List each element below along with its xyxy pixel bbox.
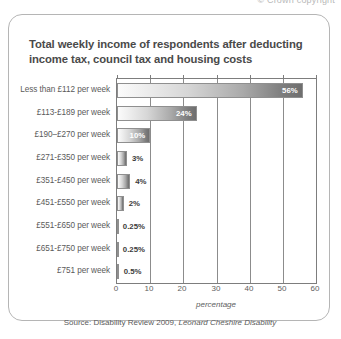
bar[interactable] — [117, 83, 303, 98]
category-label: £651-£750 per week — [9, 244, 110, 253]
axis-tick-mark — [117, 75, 118, 79]
bar-value-label: 24% — [176, 110, 192, 118]
bar-row[interactable]: 0.25% — [117, 219, 316, 234]
crown-copyright-note: © Crown copyright — [257, 0, 335, 5]
bar-value-label: 10% — [130, 132, 146, 140]
bar-row[interactable]: 10% — [117, 128, 316, 143]
chart-card: Total weekly income of respondents after… — [8, 14, 330, 321]
bar-value-label: 3% — [132, 155, 143, 163]
bar-row[interactable]: 2% — [117, 196, 316, 211]
axis-tick-mark — [283, 75, 284, 79]
bar-row[interactable]: 3% — [117, 151, 316, 166]
bar[interactable] — [117, 174, 130, 189]
x-tick-label: 0 — [114, 284, 118, 293]
x-axis-tick-labels: 0 10 20 30 40 50 60 — [9, 284, 341, 298]
bar-value-label: 56% — [282, 87, 298, 95]
x-tick-label: 20 — [178, 284, 187, 293]
bar-value-label: 0.25% — [123, 246, 145, 254]
category-label: £551-£650 per week — [9, 221, 110, 230]
chart-plot-wrapper: Less than £112 per week £113-£189 per we… — [9, 78, 341, 288]
bar[interactable] — [117, 264, 119, 279]
bar[interactable] — [117, 242, 119, 257]
bar[interactable] — [117, 196, 124, 211]
axis-tick-mark — [316, 75, 317, 79]
source-prefix: Source: Disability Review 2009, — [64, 318, 177, 327]
chart-title: Total weekly income of respondents after… — [29, 37, 319, 68]
x-tick-label: 10 — [145, 284, 154, 293]
x-axis-title: percentage — [116, 300, 316, 309]
bar[interactable] — [117, 219, 119, 234]
bar-value-label: 0.25% — [123, 223, 145, 231]
source-citation: Source: Disability Review 2009, Leonard … — [9, 318, 331, 327]
bar-value-label: 2% — [129, 200, 140, 208]
axis-tick-mark — [183, 75, 184, 79]
bar-row[interactable]: 4% — [117, 174, 316, 189]
source-publisher: Leonard Cheshire Disability — [178, 318, 276, 327]
bar[interactable] — [117, 151, 127, 166]
axis-tick-mark — [217, 75, 218, 79]
axis-tick-mark — [150, 75, 151, 79]
x-tick-label: 30 — [212, 284, 221, 293]
category-label: £751 per week — [9, 266, 110, 275]
bar-row[interactable]: 24% — [117, 106, 316, 121]
category-axis-labels: Less than £112 per week £113-£189 per we… — [9, 78, 110, 282]
x-tick-label: 40 — [245, 284, 254, 293]
category-label: £271-£350 per week — [9, 153, 110, 162]
x-tick-label: 60 — [311, 284, 320, 293]
bar-value-label: 4% — [135, 178, 146, 186]
x-tick-label: 50 — [278, 284, 287, 293]
category-label: £190–£270 per week — [9, 130, 110, 139]
page-header-strip: © Crown copyright — [0, 0, 341, 12]
axis-tick-mark — [250, 75, 251, 79]
category-label: £113-£189 per week — [9, 108, 110, 117]
bar-row[interactable]: 0.25% — [117, 242, 316, 257]
plot-area: 56%24%10%3%4%2%0.25%0.25%0.5% — [116, 78, 317, 284]
bar-value-label: 0.5% — [124, 268, 142, 276]
bar-row[interactable]: 0.5% — [117, 264, 316, 279]
category-label: £351-£450 per week — [9, 176, 110, 185]
category-label: £451-£550 per week — [9, 198, 110, 207]
category-label: Less than £112 per week — [9, 85, 110, 94]
bar-row[interactable]: 56% — [117, 83, 316, 98]
